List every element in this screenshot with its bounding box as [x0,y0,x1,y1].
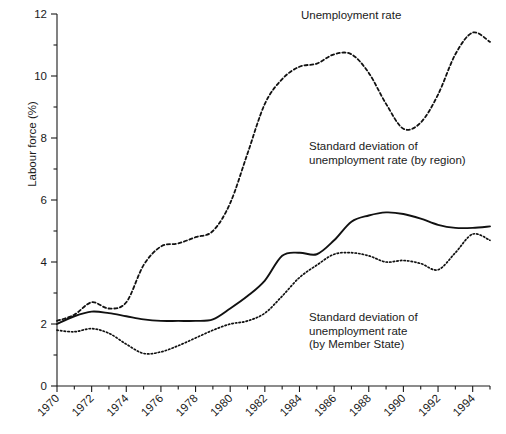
y-tick-label: 12 [34,8,47,20]
y-tick-label: 4 [41,256,48,268]
x-tick-label: 1988 [347,392,374,419]
x-tick-label: 1980 [208,392,235,419]
x-tick-label: 1984 [277,392,304,419]
x-axis: 1970197219741976197819801982198419861988… [35,386,490,419]
x-tick-label: 1970 [35,392,62,419]
x-tick-label: 1986 [312,392,339,419]
x-tick-label: 1992 [416,392,443,419]
figure-container: Labour force (%) Unemployment rate Stand… [0,0,506,434]
y-tick-label: 6 [41,194,47,206]
x-tick-label: 1994 [451,392,478,419]
chart-plot-area: 024681012 197019721974197619781980198219… [0,0,506,434]
x-tick-label: 1990 [381,392,408,419]
x-tick-label: 1976 [139,392,166,419]
y-tick-label: 0 [41,380,47,392]
y-tick-label: 8 [41,132,47,144]
y-tick-label: 2 [41,318,47,330]
series-lines [57,32,490,354]
x-tick-label: 1974 [104,392,131,419]
x-tick-label: 1978 [173,392,200,419]
y-tick-label: 10 [34,70,47,82]
series-line-dashed [57,32,490,321]
series-line-dotted [57,234,490,354]
x-tick-label: 1982 [243,392,270,419]
x-tick-label: 1972 [69,392,96,419]
y-axis: 024681012 [34,8,57,392]
